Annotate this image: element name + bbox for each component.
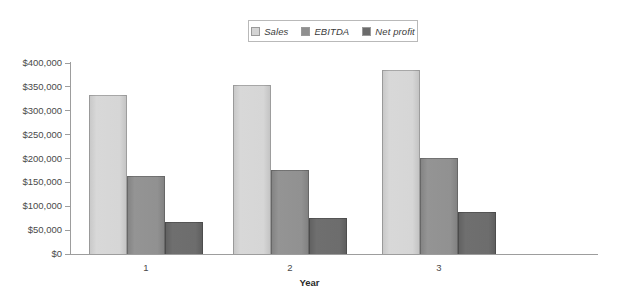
legend-swatch-net-profit (362, 27, 371, 36)
plot-area: $0$50,000$100,000$150,000$200,000$250,00… (70, 63, 598, 254)
x-axis-title: Year (0, 277, 619, 288)
chart-legend: Sales EBITDA Net profit (248, 20, 418, 42)
y-tick-mark (65, 63, 70, 64)
y-tick-label: $100,000 (22, 200, 62, 211)
bar-ebitda-year-3[interactable] (420, 158, 458, 254)
y-tick-label: $150,000 (22, 176, 62, 187)
bar-group-2 (233, 63, 347, 254)
bar-group-1 (89, 63, 203, 254)
legend-label-net-profit: Net profit (375, 26, 415, 37)
bar-ebitda-year-2[interactable] (271, 170, 309, 254)
x-axis-line (70, 254, 598, 255)
legend-swatch-ebitda (301, 27, 310, 36)
y-tick-mark (65, 110, 70, 111)
bar-sales-year-3[interactable] (382, 70, 420, 254)
bar-net-profit-year-1[interactable] (165, 222, 203, 254)
y-tick-mark (65, 158, 70, 159)
legend-label-ebitda: EBITDA (314, 26, 349, 37)
y-tick-label: $300,000 (22, 105, 62, 116)
x-tick-label-1: 1 (116, 262, 176, 273)
y-tick-label: $400,000 (22, 57, 62, 68)
bar-ebitda-year-1[interactable] (127, 176, 165, 254)
y-tick-mark (65, 230, 70, 231)
y-tick-mark (65, 134, 70, 135)
bar-group-3 (382, 63, 496, 254)
legend-item-ebitda[interactable]: EBITDA (301, 26, 349, 37)
bar-sales-year-2[interactable] (233, 85, 271, 255)
legend-item-sales[interactable]: Sales (251, 26, 288, 37)
legend-swatch-sales (251, 27, 260, 36)
y-tick-label: $200,000 (22, 153, 62, 164)
legend-item-net-profit[interactable]: Net profit (362, 26, 415, 37)
x-tick-label-2: 2 (260, 262, 320, 273)
y-tick-label: $50,000 (28, 224, 62, 235)
y-tick-mark (65, 254, 70, 255)
y-tick-label: $0 (51, 248, 62, 259)
bar-net-profit-year-2[interactable] (309, 218, 347, 254)
y-tick-label: $250,000 (22, 129, 62, 140)
y-tick-mark (65, 206, 70, 207)
bar-net-profit-year-3[interactable] (458, 212, 496, 254)
y-tick-mark (65, 86, 70, 87)
y-tick-label: $350,000 (22, 81, 62, 92)
legend-label-sales: Sales (264, 26, 288, 37)
bar-chart: Sales EBITDA Net profit $0$50,000$100,00… (0, 0, 619, 303)
bar-sales-year-1[interactable] (89, 95, 127, 254)
y-tick-mark (65, 182, 70, 183)
x-tick-label-3: 3 (409, 262, 469, 273)
